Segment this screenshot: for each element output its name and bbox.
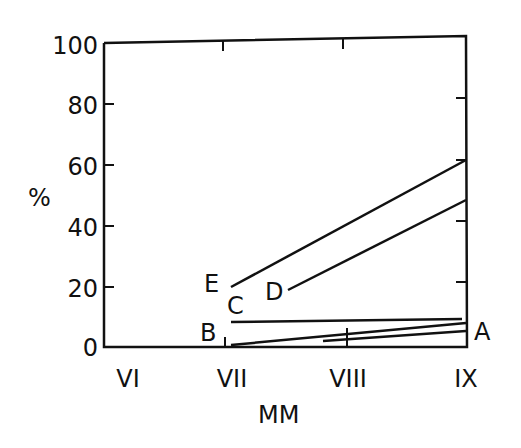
y-tick-label: 40 [28,216,98,240]
y-tick-label: 0 [28,336,98,360]
series-label-d: D [265,280,283,304]
y-axis-label: % [28,186,51,210]
x-tick-label: VIII [318,367,378,391]
x-tick-label: VII [202,367,262,391]
y-tick-label: 100 [28,34,98,58]
series-line-c [231,319,462,322]
series-line-d [288,200,466,290]
y-tick-label: 80 [28,94,98,118]
series-label-a: A [474,320,490,344]
y-ticks-left [104,104,114,287]
x-tick-label: IX [436,367,496,391]
x-axis-label: MM [258,403,299,427]
series-line-a [323,331,466,341]
series-label-c: C [227,294,244,318]
x-tick-label: VI [98,367,158,391]
series-label-b: B [200,321,216,345]
plot-frame [104,36,467,347]
y-tick-label: 60 [28,155,98,179]
series-line-e [231,160,466,287]
series-label-e: E [204,272,219,296]
y-tick-label: 20 [28,277,98,301]
